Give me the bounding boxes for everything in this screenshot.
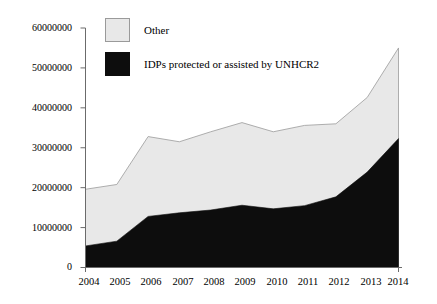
- x-axis-end-ticks: [86, 268, 399, 273]
- y-axis-ticks: [81, 28, 86, 268]
- legend-label-idps: IDPs protected or assisted by UNHCR2: [144, 58, 319, 70]
- legend-swatch-other-icon: [105, 18, 130, 42]
- chart-container: 60000000 50000000 40000000 30000000 2000…: [0, 0, 437, 304]
- legend-label-other: Other: [144, 24, 169, 36]
- plot-area: [0, 0, 437, 304]
- legend-item-other[interactable]: Other: [105, 18, 169, 42]
- legend-item-idps[interactable]: IDPs protected or assisted by UNHCR2: [105, 52, 319, 76]
- legend-swatch-idps-icon: [105, 52, 130, 76]
